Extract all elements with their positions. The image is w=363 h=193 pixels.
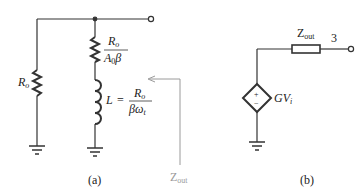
ground-icon <box>249 142 265 150</box>
svg-text:L: L <box>105 93 113 107</box>
ground-icon <box>29 146 45 154</box>
inductor <box>95 80 101 124</box>
series-resistor-label: Ro A0β <box>103 34 128 66</box>
zout-arrow-label: Zout <box>170 170 188 185</box>
svg-text:βωt: βωt <box>128 102 146 117</box>
circuit-diagram: Ro Ro A0β L = Ro βωt Zout (a) <box>0 0 363 193</box>
gain-label: GVi <box>274 91 292 106</box>
svg-text:Ro: Ro <box>107 34 119 49</box>
zout-arrow <box>148 76 180 165</box>
svg-text:A0β: A0β <box>103 51 121 66</box>
output-impedance-box <box>292 45 320 53</box>
caption-b: (b) <box>300 173 314 187</box>
source-plus-sign: + <box>254 90 259 99</box>
source-minus-sign: − <box>254 99 259 108</box>
svg-text:=: = <box>117 93 124 107</box>
ground-icon <box>87 148 103 156</box>
svg-text:Ro: Ro <box>133 86 145 101</box>
figure-a <box>29 16 180 165</box>
left-resistor-label: Ro <box>17 75 29 90</box>
left-resistor <box>33 70 41 96</box>
output-terminal-b <box>348 46 353 51</box>
caption-a: (a) <box>88 173 101 187</box>
figure-b <box>243 45 354 150</box>
series-resistor <box>91 37 99 62</box>
zout-label: Zout <box>297 26 315 41</box>
terminal-label-3: 3 <box>331 31 337 45</box>
inductor-label: L = Ro βωt <box>105 86 152 117</box>
output-terminal-a <box>148 16 153 21</box>
